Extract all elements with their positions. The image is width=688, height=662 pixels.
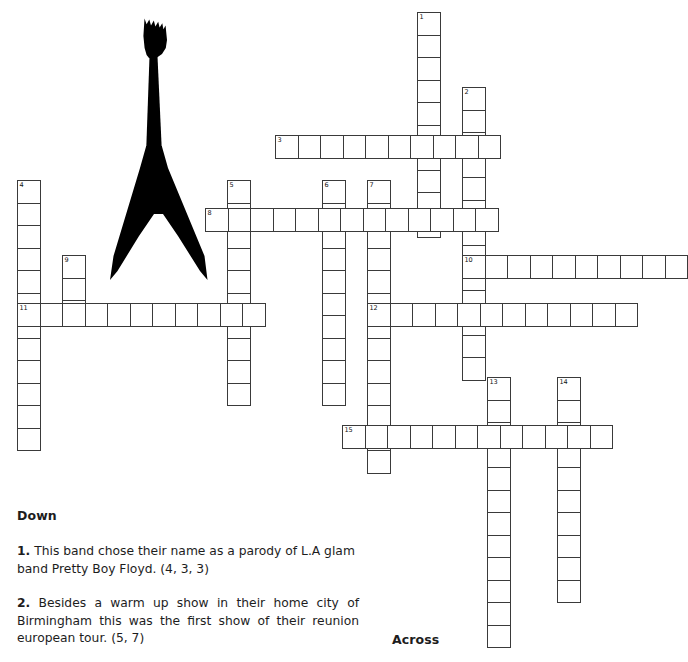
crossword-cell[interactable] xyxy=(107,303,131,327)
crossword-cell[interactable] xyxy=(152,303,176,327)
crossword-cell[interactable] xyxy=(547,303,571,327)
crossword-cell[interactable] xyxy=(385,208,409,232)
crossword-cell[interactable] xyxy=(367,450,391,474)
crossword-cell[interactable] xyxy=(175,303,199,327)
crossword-cell[interactable] xyxy=(17,383,41,407)
crossword-cell[interactable] xyxy=(557,467,581,491)
crossword-cell[interactable] xyxy=(487,625,511,649)
crossword-cell[interactable] xyxy=(480,303,504,327)
crossword-cell[interactable] xyxy=(227,360,251,384)
crossword-cell[interactable] xyxy=(62,278,86,302)
crossword-cell[interactable] xyxy=(412,303,436,327)
crossword-cell[interactable] xyxy=(318,208,342,232)
crossword-cell[interactable]: 1 xyxy=(417,12,441,36)
crossword-cell[interactable] xyxy=(462,110,486,134)
crossword-cell[interactable] xyxy=(227,383,251,407)
crossword-cell[interactable] xyxy=(343,135,367,159)
crossword-cell[interactable]: 9 xyxy=(62,255,86,279)
crossword-cell[interactable] xyxy=(40,303,64,327)
crossword-cell[interactable] xyxy=(417,170,441,194)
crossword-cell[interactable] xyxy=(557,490,581,514)
crossword-cell[interactable] xyxy=(388,135,412,159)
crossword-cell[interactable]: 11 xyxy=(17,303,41,327)
crossword-cell[interactable] xyxy=(487,535,511,559)
crossword-cell[interactable] xyxy=(487,557,511,581)
crossword-cell[interactable] xyxy=(552,255,576,279)
crossword-cell[interactable] xyxy=(17,270,41,294)
crossword-cell[interactable] xyxy=(322,315,346,339)
crossword-cell[interactable] xyxy=(17,203,41,227)
crossword-cell[interactable] xyxy=(220,303,244,327)
crossword-cell[interactable] xyxy=(435,303,459,327)
crossword-cell[interactable] xyxy=(620,255,644,279)
crossword-cell[interactable] xyxy=(462,357,486,381)
crossword-cell[interactable] xyxy=(433,135,457,159)
crossword-cell[interactable] xyxy=(522,425,546,449)
crossword-cell[interactable] xyxy=(507,255,531,279)
crossword-cell[interactable] xyxy=(453,208,477,232)
crossword-cell[interactable] xyxy=(130,303,154,327)
crossword-cell[interactable] xyxy=(557,557,581,581)
crossword-cell[interactable] xyxy=(227,248,251,272)
crossword-cell[interactable] xyxy=(502,303,526,327)
crossword-cell[interactable] xyxy=(17,225,41,249)
crossword-cell[interactable]: 15 xyxy=(342,425,366,449)
crossword-cell[interactable] xyxy=(85,303,109,327)
crossword-cell[interactable] xyxy=(250,208,274,232)
crossword-cell[interactable] xyxy=(597,255,621,279)
crossword-cell[interactable] xyxy=(365,135,389,159)
crossword-cell[interactable]: 8 xyxy=(205,208,229,232)
crossword-cell[interactable] xyxy=(322,360,346,384)
crossword-cell[interactable] xyxy=(475,208,499,232)
crossword-cell[interactable] xyxy=(17,428,41,452)
crossword-cell[interactable] xyxy=(228,208,252,232)
crossword-cell[interactable] xyxy=(410,135,434,159)
crossword-cell[interactable] xyxy=(530,255,554,279)
crossword-cell[interactable] xyxy=(557,400,581,424)
crossword-cell[interactable] xyxy=(320,135,344,159)
crossword-cell[interactable] xyxy=(500,425,524,449)
crossword-cell[interactable] xyxy=(592,303,616,327)
crossword-cell[interactable]: 10 xyxy=(462,255,486,279)
crossword-cell[interactable] xyxy=(487,400,511,424)
crossword-cell[interactable] xyxy=(322,293,346,317)
crossword-cell[interactable] xyxy=(273,208,297,232)
crossword-cell[interactable] xyxy=(417,102,441,126)
crossword-cell[interactable]: 13 xyxy=(487,377,511,401)
crossword-cell[interactable] xyxy=(242,303,266,327)
crossword-cell[interactable] xyxy=(455,425,479,449)
crossword-cell[interactable] xyxy=(455,135,479,159)
crossword-cell[interactable] xyxy=(462,335,486,359)
crossword-cell[interactable] xyxy=(575,255,599,279)
crossword-cell[interactable]: 6 xyxy=(322,180,346,204)
crossword-cell[interactable] xyxy=(17,338,41,362)
crossword-cell[interactable] xyxy=(642,255,666,279)
crossword-cell[interactable] xyxy=(477,425,501,449)
crossword-cell[interactable] xyxy=(590,425,614,449)
crossword-cell[interactable] xyxy=(478,135,502,159)
crossword-cell[interactable] xyxy=(615,303,639,327)
crossword-cell[interactable] xyxy=(322,248,346,272)
crossword-cell[interactable] xyxy=(485,255,509,279)
crossword-cell[interactable]: 3 xyxy=(275,135,299,159)
crossword-cell[interactable] xyxy=(430,208,454,232)
crossword-cell[interactable] xyxy=(487,512,511,536)
crossword-cell[interactable] xyxy=(525,303,549,327)
crossword-cell[interactable]: 12 xyxy=(367,303,391,327)
crossword-cell[interactable] xyxy=(295,208,319,232)
crossword-cell[interactable] xyxy=(567,425,591,449)
crossword-cell[interactable] xyxy=(408,208,432,232)
crossword-cell[interactable] xyxy=(487,490,511,514)
crossword-cell[interactable] xyxy=(457,303,481,327)
crossword-cell[interactable] xyxy=(227,338,251,362)
crossword-cell[interactable] xyxy=(557,512,581,536)
crossword-cell[interactable] xyxy=(545,425,569,449)
crossword-cell[interactable] xyxy=(557,580,581,604)
crossword-cell[interactable] xyxy=(17,405,41,429)
crossword-cell[interactable] xyxy=(62,303,86,327)
crossword-cell[interactable] xyxy=(570,303,594,327)
crossword-cell[interactable] xyxy=(367,360,391,384)
crossword-cell[interactable] xyxy=(365,425,389,449)
crossword-cell[interactable] xyxy=(432,425,456,449)
crossword-cell[interactable] xyxy=(322,383,346,407)
